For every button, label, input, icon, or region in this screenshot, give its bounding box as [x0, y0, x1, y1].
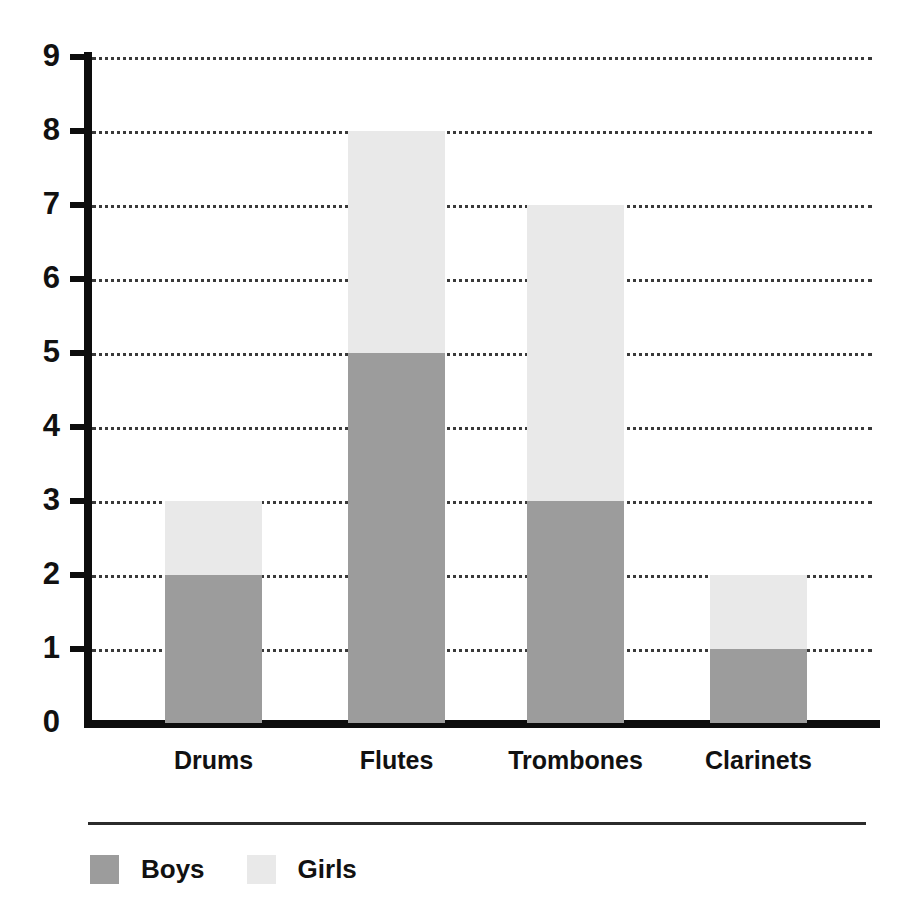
bar-segment-boys: [165, 575, 262, 723]
y-axis-tick-label: 8: [20, 114, 60, 145]
gridline: [92, 427, 872, 430]
legend-label-boys: Boys: [141, 856, 205, 882]
y-axis-tick-label: 3: [20, 484, 60, 515]
bar-segment-girls: [165, 501, 262, 575]
gridline: [92, 279, 872, 282]
y-axis-tick-label: 7: [20, 188, 60, 219]
bar-trombones: [527, 205, 624, 723]
y-axis-tick: [70, 202, 86, 208]
bar-flutes: [348, 131, 445, 723]
y-axis-tick-label: 1: [20, 632, 60, 663]
y-axis-tick-label: 2: [20, 558, 60, 589]
bar-drums: [165, 501, 262, 723]
bar-segment-boys: [348, 353, 445, 723]
y-axis-tick-label: 5: [20, 336, 60, 367]
y-axis-tick-label: 6: [20, 262, 60, 293]
gridline: [92, 205, 872, 208]
gridline: [92, 57, 872, 60]
x-axis-label-drums: Drums: [114, 748, 314, 773]
bar-clarinets: [710, 575, 807, 723]
gridline: [92, 131, 872, 134]
x-axis-label-trombones: Trombones: [476, 748, 676, 773]
bar-segment-girls: [527, 205, 624, 501]
legend-label-girls: Girls: [298, 856, 357, 882]
chart-legend: BoysGirls: [90, 852, 399, 886]
legend-item-girls: Girls: [247, 855, 357, 884]
bar-segment-boys: [527, 501, 624, 723]
y-axis-tick: [70, 646, 86, 652]
y-axis-tick: [70, 128, 86, 134]
legend-swatch-boys: [90, 855, 119, 884]
y-axis-tick: [70, 424, 86, 430]
stacked-bar-chart: 0123456789 DrumsFlutesTrombonesClarinets…: [0, 0, 906, 917]
y-axis-tick: [70, 498, 86, 504]
y-axis-tick: [70, 350, 86, 356]
legend-divider: [88, 822, 866, 825]
x-axis-label-flutes: Flutes: [297, 748, 497, 773]
y-axis-tick-label: 4: [20, 410, 60, 441]
legend-swatch-girls: [247, 855, 276, 884]
legend-item-boys: Boys: [90, 855, 205, 884]
y-axis-tick: [70, 572, 86, 578]
bar-segment-boys: [710, 649, 807, 723]
y-axis-tick-label: 9: [20, 40, 60, 71]
gridline: [92, 353, 872, 356]
y-axis-tick: [70, 54, 86, 60]
bar-segment-girls: [348, 131, 445, 353]
y-axis-line: [84, 52, 92, 728]
x-axis-label-clarinets: Clarinets: [659, 748, 859, 773]
y-axis-tick-label: 0: [20, 706, 60, 737]
y-axis-tick: [70, 276, 86, 282]
bar-segment-girls: [710, 575, 807, 649]
